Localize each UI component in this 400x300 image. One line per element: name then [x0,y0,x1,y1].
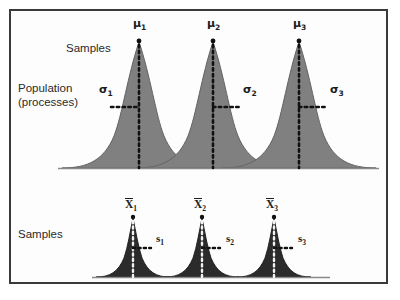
sigma-2-subscript: 2 [252,89,257,98]
mu-1-symbol: μ [133,17,141,30]
xbar-1-label: X1 [125,198,137,214]
sigma-3-label: σ3 [330,84,344,99]
sample-mean-markers [131,215,276,219]
xbar-2-label: X2 [194,198,206,214]
mean-marker-3 [297,39,302,44]
mu-1-subscript: 1 [141,23,146,32]
sigma-1-label: σ1 [99,84,113,99]
s-1-subscript: 1 [160,238,164,247]
diagram-canvas [0,0,400,300]
s-1-label: s1 [156,232,164,248]
mu-3-label: μ3 [293,18,306,33]
population-mean-markers [137,39,302,44]
samples-top-label: Samples [66,42,111,55]
sample-mean-marker-1 [131,215,135,219]
mu-2-symbol: μ [207,17,215,30]
sample-mean-marker-2 [200,215,204,219]
mu-2-label: μ2 [207,18,220,33]
mu-3-subscript: 3 [301,23,306,32]
s-3-subscript: 3 [302,238,306,247]
population-curves-group [58,42,379,169]
xbar-3-subscript: 3 [274,204,278,213]
sigma-1-subscript: 1 [108,89,113,98]
mu-3-symbol: μ [293,17,301,30]
sigma-2-label: σ2 [243,84,257,99]
sigma-3-subscript: 3 [339,89,344,98]
mean-marker-1 [137,39,142,44]
s-2-label: s2 [226,232,234,248]
population-label-line1: Population [18,82,72,95]
s-3-label: s3 [298,232,306,248]
xbar-2-subscript: 2 [202,204,206,213]
sigma-3-symbol: σ [330,83,339,96]
population-label-line2: (processes) [18,96,78,109]
s-2-subscript: 2 [230,238,234,247]
xbar-3-label: X3 [266,198,278,214]
statistics-diagram: Samples Population (processes) Samples μ… [0,0,400,300]
sigma-1-symbol: σ [99,83,108,96]
xbar-1-subscript: 1 [133,204,137,213]
mu-2-subscript: 2 [215,23,220,32]
mean-marker-2 [211,39,216,44]
sample-curves-group [92,218,330,278]
mu-1-label: μ1 [133,18,146,33]
samples-bottom-label: Samples [18,228,63,241]
sigma-2-symbol: σ [243,83,252,96]
sample-mean-marker-3 [272,215,276,219]
